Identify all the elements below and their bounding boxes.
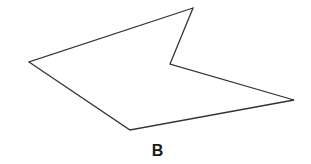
concave-polygon <box>29 8 294 130</box>
figure-label: B <box>0 142 311 160</box>
polygon-figure <box>0 0 311 164</box>
